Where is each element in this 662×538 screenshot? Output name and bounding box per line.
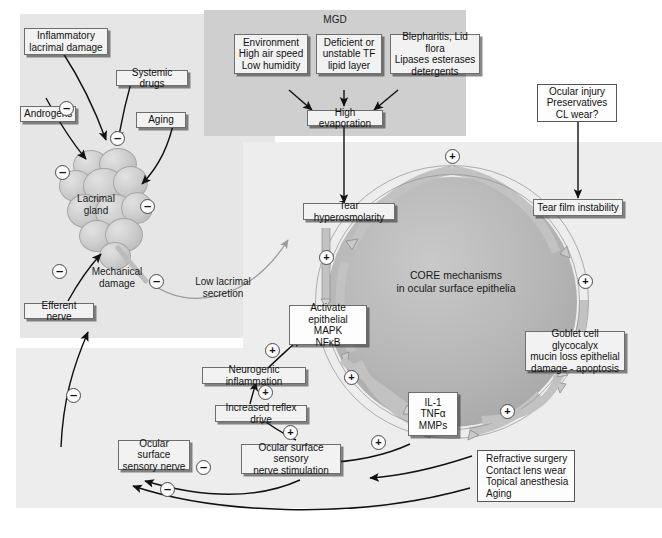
ribbon-hyperosmolarity-to-activate bbox=[321, 228, 331, 308]
sign-minus-efferent-nerve: – bbox=[52, 264, 67, 279]
arrow-inflammatory-to-gland bbox=[63, 53, 106, 140]
node-systemic-drugs[interactable]: Systemic drugs bbox=[116, 70, 188, 86]
node-label: Tear hyperosmolarity bbox=[307, 200, 391, 223]
node-label: Goblet cell glycocalyx mucin loss epithe… bbox=[529, 328, 621, 374]
sign-plus-ring-top: + bbox=[445, 149, 460, 164]
core-mechanisms-label: CORE mechanisms in ocular surface epithe… bbox=[386, 269, 526, 295]
sign-minus-sensory-nerve-upper: – bbox=[196, 460, 211, 475]
sign-plus-neurogenic-to-activate: + bbox=[265, 343, 280, 358]
node-ocular-surface-sensory-nerve-stimulation[interactable]: Ocular surface sensory nerve stimulation bbox=[241, 444, 341, 474]
sign-plus-ring-left-upper: + bbox=[319, 250, 334, 265]
node-high-evaporation[interactable]: High evaporation bbox=[307, 110, 383, 126]
node-label: Blepharitis, Lid flora Lipases esterases… bbox=[394, 31, 476, 77]
node-deficient-tf-lipid-layer[interactable]: Deficient or unstable TF lipid layer bbox=[316, 34, 382, 74]
node-label: Refractive surgery Contact lens wear Top… bbox=[486, 453, 571, 499]
sign-minus-sensory-nerve-lower: – bbox=[160, 482, 175, 497]
node-label: Environment High air speed Low humidity bbox=[238, 37, 304, 72]
node-environment[interactable]: Environment High air speed Low humidity bbox=[234, 34, 308, 74]
mgd-title: MGD bbox=[305, 14, 365, 26]
node-ocular-injury[interactable]: Ocular injury Preservatives CL wear? bbox=[537, 84, 617, 122]
node-ocular-surface-sensory-nerve[interactable]: Ocular surface sensory nerve bbox=[118, 440, 190, 470]
sign-plus-ring-right-lower: + bbox=[500, 404, 515, 419]
node-label: Deficient or unstable TF lipid layer bbox=[320, 37, 378, 72]
node-label: Neurogenic inflammation bbox=[206, 364, 302, 387]
arrow-environment-to-evaporation bbox=[289, 90, 312, 110]
diagram-canvas: Lacrimal gland bbox=[0, 0, 662, 538]
node-label: Efferent nerve bbox=[28, 300, 90, 323]
arrow-refractive-to-il1-feed bbox=[370, 456, 472, 478]
node-blepharitis-lid-flora[interactable]: Blepharitis, Lid flora Lipases esterases… bbox=[390, 34, 480, 74]
node-goblet-cell[interactable]: Goblet cell glycocalyx mucin loss epithe… bbox=[525, 331, 625, 371]
node-aging-left[interactable]: Aging bbox=[136, 112, 186, 128]
node-increased-reflex-drive[interactable]: Increased reflex drive bbox=[215, 405, 307, 422]
node-label: Aging bbox=[140, 114, 182, 126]
sign-minus-androgens: – bbox=[55, 165, 70, 180]
node-label: Ocular surface sensory nerve bbox=[122, 438, 186, 473]
node-label: Ocular surface sensory nerve stimulation bbox=[245, 442, 337, 477]
sign-minus-mechanical-damage: – bbox=[149, 274, 164, 289]
low-lacrimal-secretion-label: Low lacrimal secretion bbox=[183, 276, 263, 300]
sign-minus-systemic-drugs: – bbox=[110, 131, 125, 146]
node-refractive-surgery[interactable]: Refractive surgery Contact lens wear Top… bbox=[477, 450, 575, 502]
sign-minus-aging: – bbox=[140, 199, 155, 214]
node-activate-epithelial[interactable]: Activate epithelial MAPK NFκB bbox=[289, 305, 367, 345]
node-inflammatory-lacrimal-damage[interactable]: Inflammatory lacrimal damage bbox=[24, 28, 108, 55]
sign-plus-reflex-to-neurogenic: + bbox=[258, 385, 273, 400]
sign-minus-sensory-nerve-feedback: – bbox=[66, 388, 81, 403]
node-il1-tnf-mmps[interactable]: IL-1 TNFα MMPs bbox=[408, 392, 458, 436]
node-label: Systemic drugs bbox=[120, 67, 184, 90]
sign-plus-ring-left-lower: + bbox=[344, 370, 359, 385]
sign-plus-ring-right-upper: + bbox=[578, 274, 593, 289]
node-tear-hyperosmolarity[interactable]: Tear hyperosmolarity bbox=[303, 203, 395, 220]
sign-minus-inflammatory: – bbox=[59, 101, 74, 116]
node-neurogenic-inflammation[interactable]: Neurogenic inflammation bbox=[202, 367, 306, 384]
node-label: Inflammatory lacrimal damage bbox=[28, 30, 104, 53]
node-tear-film-instability[interactable]: Tear film instability bbox=[533, 199, 623, 216]
node-label: IL-1 TNFα MMPs bbox=[412, 397, 454, 432]
sign-plus-il1-to-stimulation: + bbox=[371, 435, 386, 450]
node-label: Increased reflex drive bbox=[219, 402, 303, 425]
node-label: High evaporation bbox=[311, 107, 379, 130]
node-label: Activate epithelial MAPK NFκB bbox=[293, 302, 363, 348]
node-label: Tear film instability bbox=[537, 202, 619, 214]
mechanical-damage-label: Mechanical damage bbox=[78, 266, 156, 290]
node-efferent-nerve[interactable]: Efferent nerve bbox=[24, 303, 94, 319]
sign-plus-stimulation-to-reflex: + bbox=[283, 425, 298, 440]
node-label: Ocular injury Preservatives CL wear? bbox=[541, 86, 613, 121]
